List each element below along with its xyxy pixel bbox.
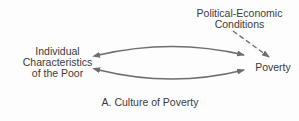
- bottom-arc-arrow: [99, 70, 244, 79]
- diagram-caption: A. Culture of Poverty: [90, 97, 210, 108]
- node-poverty: Poverty: [250, 62, 296, 73]
- diagram-canvas: Individual Characteristics of the Poor P…: [0, 0, 299, 121]
- node-political-line-2: Conditions: [192, 19, 287, 30]
- node-political-economic-conditions: Political-Economic Conditions: [192, 8, 287, 30]
- top-arc-arrow: [99, 47, 244, 56]
- node-individual-characteristics: Individual Characteristics of the Poor: [10, 46, 105, 79]
- node-individual-line-3: of the Poor: [10, 68, 105, 79]
